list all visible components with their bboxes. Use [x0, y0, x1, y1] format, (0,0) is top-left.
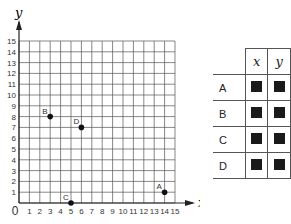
- x-tick-label: 14: [160, 207, 169, 216]
- x-tick-label: 6: [79, 207, 84, 216]
- data-point: [79, 125, 85, 131]
- point-label: A: [157, 182, 163, 191]
- y-tick-label: 11: [8, 80, 17, 89]
- table-row: C: [213, 127, 291, 153]
- x-tick-label: 4: [58, 207, 63, 216]
- header-x: x: [245, 49, 268, 75]
- y-tick-label: 10: [7, 91, 16, 100]
- x-tick-label: 5: [69, 207, 74, 216]
- row-label: A: [213, 75, 245, 101]
- y-tick-label: 13: [7, 59, 16, 68]
- y-tick-label: 8: [12, 113, 17, 122]
- answer-box[interactable]: [251, 159, 262, 170]
- y-tick-label: 12: [7, 69, 16, 78]
- point-label: D: [73, 117, 79, 126]
- x-tick-label: 1: [27, 207, 32, 216]
- x-tick-label: 11: [129, 207, 138, 216]
- x-tick-label: 7: [90, 207, 95, 216]
- y-tick-label: 15: [7, 37, 16, 46]
- x-tick-label: 8: [100, 207, 105, 216]
- x-tick-label: 9: [110, 207, 115, 216]
- answer-box[interactable]: [274, 159, 285, 170]
- y-tick-label: 7: [12, 123, 17, 132]
- y-tick-label: 2: [12, 177, 17, 186]
- x-tick-label: 10: [119, 207, 128, 216]
- y-tick-label: 3: [12, 167, 17, 176]
- y-axis-label: y: [14, 5, 23, 20]
- x-axis-arrow-icon: [185, 200, 195, 206]
- y-tick-label: 14: [7, 48, 16, 57]
- x-tick-label: 12: [139, 207, 148, 216]
- data-point: [162, 189, 168, 195]
- y-tick-label: 5: [12, 145, 17, 154]
- table-row: D: [213, 153, 291, 179]
- header-y: y: [268, 49, 291, 75]
- answer-box[interactable]: [251, 133, 262, 144]
- answer-box[interactable]: [274, 133, 285, 144]
- table-corner: [213, 49, 245, 75]
- coordinate-plane: yx12345678910111213141501234567891011121…: [0, 0, 200, 224]
- point-label: C: [63, 193, 69, 202]
- y-axis-arrow-icon: [16, 20, 22, 30]
- coordinates-table: x y A B C D: [213, 48, 291, 179]
- x-tick-label: 2: [38, 207, 43, 216]
- answer-box[interactable]: [274, 81, 285, 92]
- row-label: B: [213, 101, 245, 127]
- answer-box[interactable]: [274, 107, 285, 118]
- x-tick-label: 15: [171, 207, 180, 216]
- y-tick-label: 4: [12, 156, 17, 165]
- y-tick-label: 6: [12, 134, 17, 143]
- x-tick-label: 3: [48, 207, 53, 216]
- table-row: A: [213, 75, 291, 101]
- data-point: [47, 114, 53, 120]
- x-tick-label: 13: [150, 207, 159, 216]
- table-row: B: [213, 101, 291, 127]
- origin-label: 0: [12, 204, 19, 218]
- point-label: B: [42, 107, 47, 116]
- row-label: C: [213, 127, 245, 153]
- data-point: [68, 200, 74, 206]
- x-axis-label: x: [198, 195, 200, 210]
- y-tick-label: 9: [12, 102, 17, 111]
- row-label: D: [213, 153, 245, 179]
- y-tick-label: 1: [12, 188, 17, 197]
- answer-box[interactable]: [251, 81, 262, 92]
- answer-box[interactable]: [251, 107, 262, 118]
